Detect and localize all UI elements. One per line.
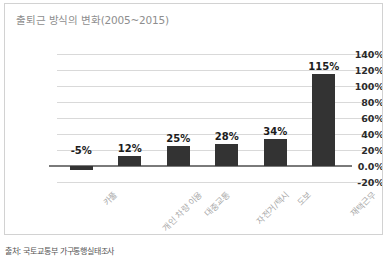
bar-value-label: 12% — [118, 143, 142, 154]
x-axis-category-label: 대중교통 — [201, 188, 232, 219]
y-axis-tick-label: 80% — [338, 97, 383, 108]
bar — [264, 139, 287, 166]
plot-area: 140%120%100%80%60%40%20%0.0%-20%-5%카풀12%… — [5, 4, 383, 235]
y-axis-tick-label: 20% — [338, 145, 383, 156]
bar-value-label: 28% — [215, 131, 239, 142]
x-axis-category-label: 자전거/택시 — [253, 188, 291, 226]
bar-value-label: -5% — [71, 145, 92, 156]
x-axis-category-label: 개인 차량 이용 — [159, 188, 204, 233]
y-axis-tick-label: 120% — [338, 65, 383, 76]
bar — [118, 156, 141, 166]
gridline — [57, 182, 380, 183]
source-note: 출처: 국토교통부 가구통행실태조사 — [5, 245, 114, 256]
gridline — [57, 54, 380, 55]
y-axis-tick-label: 140% — [338, 49, 383, 60]
zero-axis-line — [49, 165, 352, 167]
bar — [70, 166, 93, 170]
x-axis-category-label: 재택근무 — [347, 188, 378, 219]
y-axis-tick-label: -20% — [338, 177, 383, 188]
x-axis-category-label: 도보 — [294, 188, 314, 208]
y-axis-tick-label: 100% — [338, 81, 383, 92]
y-axis-tick-label: 60% — [338, 113, 383, 124]
chart-card: 출퇴근 방식의 변화(2005~2015) 140%120%100%80%60%… — [4, 3, 383, 235]
y-axis-tick-label: 0.0% — [338, 161, 383, 172]
y-axis-tick-label: 40% — [338, 129, 383, 140]
bar — [215, 144, 238, 166]
bar-value-label: 25% — [166, 133, 190, 144]
x-axis-category-label: 카풀 — [100, 188, 120, 208]
bar-value-label: 115% — [308, 61, 339, 72]
bar-value-label: 34% — [263, 126, 287, 137]
bar — [312, 74, 335, 166]
bar — [167, 146, 190, 166]
